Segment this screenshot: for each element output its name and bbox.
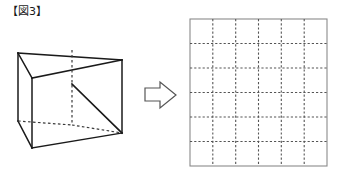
cube-hidden-edge-bottom-left [18,121,72,125]
figure-container: 【図3】 [0,0,347,188]
figure-drawing [0,0,347,188]
right-arrow-icon [145,82,176,108]
cube-edge-bottom-left-slant [18,121,32,148]
cube-edge-top-front [32,60,122,78]
cube-edge-top-left-slant [18,53,32,78]
cube-edge-bottom-front [32,133,122,148]
grid-group [190,19,327,166]
cube-edge-top-back [18,53,122,60]
cube-group [18,50,122,148]
